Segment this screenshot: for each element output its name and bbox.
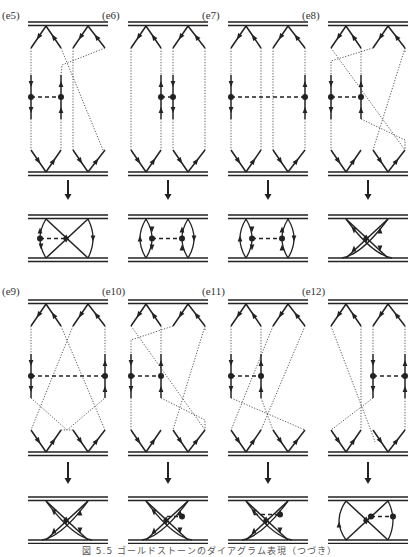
arrow-icon bbox=[91, 236, 96, 242]
arrow-icon bbox=[350, 438, 356, 445]
arrow-icon bbox=[52, 34, 58, 41]
dotted-line bbox=[361, 119, 405, 150]
arrow-icon bbox=[337, 311, 343, 318]
arrow-icon bbox=[59, 107, 64, 113]
panel-label: (e12) bbox=[302, 285, 326, 298]
arrow-icon bbox=[52, 312, 58, 319]
arrow-icon bbox=[229, 360, 234, 366]
dotted-line bbox=[61, 48, 105, 75]
goldstone-diagram-figure: (e5)(e6)(e7)(e8)(e9)(e10)(e11)(e12) bbox=[0, 0, 419, 544]
arrow-icon bbox=[35, 157, 41, 164]
arrow-icon bbox=[138, 236, 143, 242]
dotted-line bbox=[331, 48, 373, 75]
panel-e7: (e7) bbox=[202, 9, 308, 262]
arrow-icon bbox=[292, 236, 297, 242]
arrow-icon bbox=[179, 311, 185, 318]
panel-e9: (e9) bbox=[2, 285, 108, 544]
arrow-icon bbox=[152, 34, 158, 41]
dotted-line bbox=[61, 48, 103, 150]
down-arrow-icon bbox=[265, 478, 272, 484]
panel-label: (e5) bbox=[2, 9, 20, 22]
dotted-line bbox=[31, 398, 105, 430]
arrow-icon bbox=[279, 311, 285, 318]
dotted-line bbox=[31, 326, 73, 430]
arrow-icon bbox=[337, 522, 342, 528]
arrow-icon bbox=[377, 157, 383, 164]
down-arrow-icon bbox=[165, 194, 172, 200]
arrow-icon bbox=[252, 312, 258, 319]
arrow-icon bbox=[135, 157, 141, 164]
arrow-icon bbox=[177, 157, 183, 164]
arrow-icon bbox=[79, 311, 85, 318]
down-arrow-icon bbox=[265, 194, 272, 200]
arrow-icon bbox=[59, 81, 64, 87]
arrow-icon bbox=[179, 33, 185, 40]
arrow-icon bbox=[303, 81, 308, 87]
arrow-icon bbox=[129, 386, 134, 392]
arrow-icon bbox=[252, 34, 258, 41]
arrow-icon bbox=[192, 236, 197, 242]
panel-label: (e6) bbox=[102, 9, 120, 22]
arrow-icon bbox=[350, 158, 356, 165]
arrow-icon bbox=[77, 157, 83, 164]
down-arrow-icon bbox=[365, 478, 372, 484]
panel-label: (e7) bbox=[202, 9, 220, 22]
arrow-icon bbox=[29, 386, 34, 392]
dotted-line bbox=[331, 398, 373, 430]
arrow-icon bbox=[359, 107, 364, 113]
arrow-icon bbox=[37, 33, 43, 40]
arrow-icon bbox=[352, 312, 358, 319]
arrow-icon bbox=[150, 158, 156, 165]
arrow-icon bbox=[250, 438, 256, 445]
arrow-icon bbox=[229, 107, 234, 113]
arrow-icon bbox=[379, 311, 385, 318]
arrow-icon bbox=[159, 386, 164, 392]
arrow-icon bbox=[238, 236, 243, 242]
arrow-icon bbox=[171, 81, 176, 87]
figure-caption: 図 5.5 ゴールドストーンのダイアグラム表現（つづき） bbox=[0, 544, 419, 557]
arrow-icon bbox=[352, 34, 358, 41]
dotted-line bbox=[231, 398, 305, 430]
propagator-curve bbox=[339, 501, 346, 540]
arrow-icon bbox=[159, 360, 164, 366]
dotted-line bbox=[131, 326, 173, 354]
arrow-icon bbox=[371, 360, 376, 366]
arrow-icon bbox=[235, 157, 241, 164]
arrow-icon bbox=[303, 107, 308, 113]
dotted-line bbox=[261, 398, 273, 430]
arrow-icon bbox=[403, 386, 408, 392]
panel-e10: (e10) bbox=[102, 285, 208, 544]
arrow-icon bbox=[335, 157, 341, 164]
arrow-icon bbox=[159, 107, 164, 113]
dotted-line bbox=[173, 326, 205, 430]
arrow-icon bbox=[137, 311, 143, 318]
arrow-icon bbox=[103, 386, 108, 392]
arrow-icon bbox=[29, 81, 34, 87]
down-arrow-icon bbox=[165, 478, 172, 484]
arrow-icon bbox=[77, 437, 83, 444]
arrow-icon bbox=[129, 360, 134, 366]
panel-e6: (e6) bbox=[102, 9, 208, 262]
arrow-icon bbox=[39, 244, 44, 250]
down-arrow-icon bbox=[365, 194, 372, 200]
panel-e12: (e12) bbox=[302, 285, 408, 544]
arrow-icon bbox=[259, 386, 264, 392]
arrow-icon bbox=[159, 81, 164, 87]
arrow-icon bbox=[29, 107, 34, 113]
arrow-icon bbox=[279, 33, 285, 40]
arrow-icon bbox=[250, 158, 256, 165]
arrow-icon bbox=[359, 81, 364, 87]
arrow-icon bbox=[79, 33, 85, 40]
arrow-icon bbox=[135, 437, 141, 444]
down-arrow-icon bbox=[65, 194, 72, 200]
dotted-line bbox=[161, 398, 205, 430]
arrow-icon bbox=[379, 33, 385, 40]
dotted-line bbox=[331, 326, 375, 442]
arrow-icon bbox=[37, 311, 43, 318]
arrow-icon bbox=[377, 437, 383, 444]
down-arrow-icon bbox=[65, 478, 72, 484]
dotted-line bbox=[61, 326, 105, 430]
panel-label: (e10) bbox=[102, 285, 126, 298]
arrow-icon bbox=[50, 438, 56, 445]
arrow-icon bbox=[329, 81, 334, 87]
